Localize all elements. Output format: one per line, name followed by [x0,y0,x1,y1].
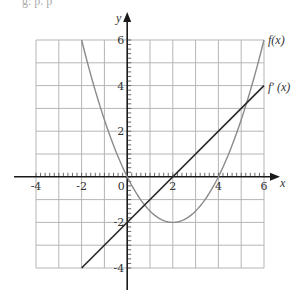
axes [14,12,280,290]
y-tick-label: -2 [113,216,124,229]
f-curve-label: f(x) [268,33,285,47]
y-tick-label: 4 [117,80,124,93]
x-tick-label: 0 [118,180,125,193]
function-graph: -4-20246-4-2246 x y f(x) f′ (x) [0,0,306,300]
fprime-line-label: f′ (x) [268,80,290,94]
x-axis-arrow-icon [270,173,280,181]
y-tick-label: 6 [117,34,124,47]
y-tick-label: 2 [117,125,124,138]
x-tick-label: 2 [169,180,176,193]
x-tick-label: 6 [261,180,268,193]
x-tick-label: 4 [215,180,222,193]
x-tick-label: -2 [76,180,87,193]
x-axis-label: x [279,176,286,190]
y-tick-label: -4 [113,262,124,275]
y-axis-arrow-icon [123,12,131,22]
grid [36,40,264,268]
y-axis-label: y [115,11,122,25]
x-tick-label: -4 [31,180,42,193]
